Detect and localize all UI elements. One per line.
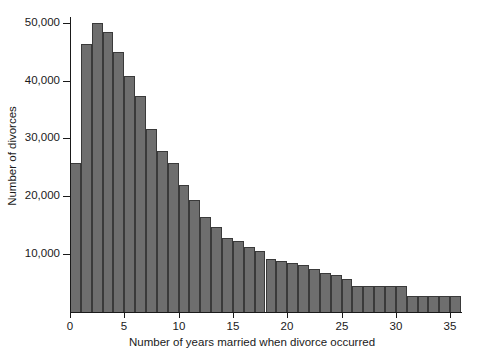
- x-axis-tick: [287, 312, 288, 318]
- histogram-bar: [211, 227, 222, 312]
- histogram-bar: [135, 96, 146, 312]
- x-axis-tick-label: 5: [104, 320, 144, 332]
- histogram-bar: [374, 286, 385, 312]
- histogram-bar: [407, 296, 418, 312]
- histogram-bar: [81, 44, 92, 312]
- histogram-bar: [200, 217, 211, 312]
- histogram-bar: [157, 151, 168, 312]
- histogram-bar: [309, 269, 320, 312]
- histogram-bar: [450, 296, 461, 312]
- y-axis-title: Number of divorces: [6, 71, 18, 241]
- x-axis-tick: [124, 312, 125, 318]
- y-axis-tick-label: 50,000: [0, 16, 60, 28]
- histogram-bar: [428, 296, 439, 312]
- histogram-bar: [103, 32, 114, 312]
- histogram-bar: [92, 23, 103, 312]
- histogram-bar: [352, 286, 363, 312]
- x-axis-tick-label: 10: [159, 320, 199, 332]
- x-axis-tick-label: 30: [376, 320, 416, 332]
- y-axis-tick-label: 10,000: [0, 247, 60, 259]
- histogram-bar: [113, 52, 124, 312]
- histogram-bar: [287, 263, 298, 312]
- histogram-bar: [439, 296, 450, 312]
- histogram-bar: [179, 185, 190, 312]
- plot-area: [70, 17, 461, 312]
- x-axis-tick: [450, 312, 451, 318]
- x-axis-tick-label: 0: [50, 320, 90, 332]
- x-axis-line: [70, 312, 462, 313]
- y-axis-tick: [63, 196, 70, 197]
- histogram-bar: [255, 251, 266, 312]
- x-axis-tick-label: 35: [430, 320, 470, 332]
- histogram-bar: [320, 273, 331, 312]
- histogram-bar: [385, 286, 396, 312]
- y-axis-tick: [63, 81, 70, 82]
- x-axis-tick: [396, 312, 397, 318]
- histogram-bar: [266, 259, 277, 312]
- x-axis-tick: [233, 312, 234, 318]
- histogram-bar: [222, 238, 233, 312]
- histogram-bar: [168, 163, 179, 312]
- x-axis-tick: [342, 312, 343, 318]
- y-axis-tick: [63, 23, 70, 24]
- x-axis-tick-label: 20: [267, 320, 307, 332]
- bar-series: [70, 17, 461, 312]
- histogram-bar: [418, 296, 429, 312]
- histogram-bar: [146, 129, 157, 312]
- x-axis-tick: [179, 312, 180, 318]
- x-axis-tick-label: 15: [213, 320, 253, 332]
- x-axis-tick: [70, 312, 71, 318]
- histogram-bar: [244, 247, 255, 312]
- y-axis-line: [70, 17, 71, 312]
- histogram-bar: [396, 286, 407, 312]
- histogram-bar: [189, 200, 200, 312]
- histogram-figure: 10,00020,00030,00040,00050,000 051015202…: [0, 0, 504, 353]
- x-axis-tick-label: 25: [322, 320, 362, 332]
- histogram-bar: [298, 265, 309, 312]
- histogram-bar: [70, 163, 81, 312]
- y-axis-tick: [63, 138, 70, 139]
- histogram-bar: [363, 286, 374, 312]
- histogram-bar: [331, 275, 342, 312]
- histogram-bar: [124, 76, 135, 312]
- histogram-bar: [276, 261, 287, 312]
- x-axis-title: Number of years married when divorce occ…: [0, 336, 504, 348]
- y-axis-tick: [63, 254, 70, 255]
- histogram-bar: [233, 241, 244, 312]
- histogram-bar: [342, 279, 353, 312]
